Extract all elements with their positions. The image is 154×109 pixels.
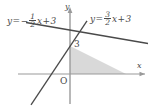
shaded-triangle-region (70, 46, 126, 74)
equation-left-constant: 3 (51, 17, 57, 26)
origin-label: O (60, 77, 67, 86)
equation-right-constant: 3 (126, 15, 132, 24)
equation-left-fraction: 1 2 (29, 13, 36, 30)
equation-left-plus: + (43, 17, 51, 26)
y-intercept-label: 3 (74, 40, 80, 49)
y-axis-label: y (65, 3, 70, 11)
equation-left-variable: x (37, 17, 42, 26)
equation-left-lhs: y (7, 17, 12, 26)
x-axis-arrowhead (140, 72, 146, 76)
equation-right-plus: + (118, 15, 126, 24)
equation-right-equals: = (96, 15, 104, 24)
equation-right-numerator: 3 (104, 11, 111, 19)
equation-right-lhs: y (90, 15, 95, 24)
coordinate-plane-figure: y = − 1 2 x + 3 y = 3 2 x + 3 y x 3 O (0, 0, 154, 109)
equation-label-right: y = 3 2 x + 3 (90, 11, 131, 28)
equation-right-fraction: 3 2 (104, 11, 111, 28)
equation-right-denominator: 2 (104, 18, 111, 27)
equation-right-variable: x (112, 15, 117, 24)
equation-left-numerator: 1 (29, 13, 36, 21)
equation-left-denominator: 2 (29, 20, 36, 29)
equation-label-left: y = − 1 2 x + 3 (7, 13, 56, 30)
equation-left-equals: = (13, 17, 21, 26)
x-axis-label: x (137, 62, 142, 70)
equation-left-sign: − (21, 17, 29, 26)
